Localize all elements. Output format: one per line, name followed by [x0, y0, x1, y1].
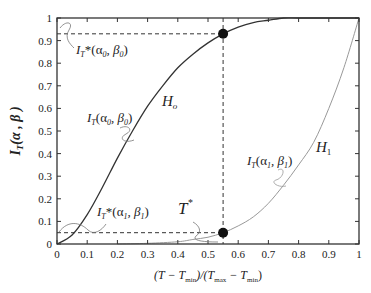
annotation-h-o: Ho [161, 93, 178, 111]
x-tick-label: 0.6 [231, 248, 245, 260]
y-tick-label: 1 [47, 12, 53, 24]
svg-text:IT*(α0, β0): IT*(α0, β0) [75, 42, 128, 59]
annotation-it-star-alpha0-beta0: IT*(α0, β0) [60, 23, 128, 59]
y-tick-label: 0.9 [38, 35, 52, 47]
y-tick-label: 0.4 [38, 148, 52, 160]
svg-text:(T − Tmin)/(Tmax − Tmin): (T − Tmin)/(Tmax − Tmin) [154, 268, 262, 284]
svg-text:IT*(α1, β1): IT*(α1, β1) [96, 204, 149, 221]
svg-text:IT(α , β ): IT(α , β ) [8, 106, 25, 156]
y-tick-label: 0.6 [38, 102, 52, 114]
x-tick-label: 0.9 [322, 248, 336, 260]
y-tick-label: 0.5 [38, 125, 52, 137]
y-tick-label: 0.8 [38, 57, 52, 69]
svg-text:Ho: Ho [161, 93, 178, 111]
svg-text:IT(α1, β1): IT(α1, β1) [246, 153, 292, 170]
annotation-it-alpha0-beta0: IT(α0, β0) [86, 110, 134, 141]
y-axis-label: IT(α , β ) [8, 106, 25, 156]
annotation-it-alpha1-beta1: IT(α1, β1) [246, 153, 292, 186]
annotation-h-1: H1 [315, 139, 331, 157]
y-tick-label: 0.1 [38, 215, 52, 227]
curve-h-1 [117, 18, 359, 244]
y-tick-label: 0.2 [38, 193, 52, 205]
y-tick-label: 0.7 [38, 80, 52, 92]
x-tick-label: 1 [356, 248, 362, 260]
x-tick-label: 0.1 [80, 248, 94, 260]
x-tick-label: 0.5 [201, 248, 215, 260]
x-tick-label: 0.4 [171, 248, 185, 260]
annotation-it-star-alpha1-beta1: IT*(α1, β1) [59, 204, 149, 232]
annotation-t-star: T* [178, 197, 218, 242]
x-tick-label: 0.2 [111, 248, 125, 260]
x-axis-label: (T − Tmin)/(Tmax − Tmin) [154, 268, 262, 284]
marker-point [218, 29, 228, 39]
svg-text:IT(α0, β0): IT(α0, β0) [86, 110, 132, 127]
x-tick-label: 0.7 [262, 248, 276, 260]
x-tick-label: 0 [54, 248, 60, 260]
marker-point [218, 228, 228, 238]
y-tick-label: 0 [47, 238, 53, 250]
svg-text:H1: H1 [315, 139, 331, 157]
chart: 00.10.20.30.40.50.60.70.80.9100.10.20.30… [0, 0, 371, 293]
x-tick-label: 0.8 [292, 248, 306, 260]
y-tick-label: 0.3 [38, 170, 52, 182]
x-tick-label: 0.3 [141, 248, 155, 260]
svg-text:T*: T* [178, 197, 192, 218]
